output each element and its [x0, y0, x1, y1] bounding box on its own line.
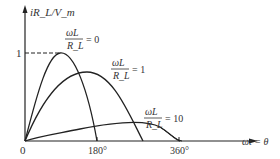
x-tick-label-360: 360° [170, 145, 189, 156]
svg-text:ωL: ωL [112, 57, 125, 68]
svg-text:ωL: ωL [145, 106, 158, 117]
y-axis-label: iR_L/V_m [30, 6, 75, 18]
label-wl-0: ωL R_L = 0 [65, 27, 99, 51]
curve-wl-1 [25, 72, 143, 141]
x-axis-label: ωt = θ [242, 136, 269, 147]
label-wl-10: ωL R_L = 10 [144, 106, 183, 130]
origin-label: 0 [20, 144, 26, 156]
svg-text:R_L: R_L [112, 70, 130, 81]
svg-text:ωL: ωL [66, 27, 79, 38]
y-tick-label: 1 [16, 47, 22, 59]
svg-text:= 0: = 0 [86, 34, 99, 45]
y-axis-arrow-icon [23, 5, 28, 13]
svg-text:= 10: = 10 [165, 113, 183, 124]
svg-text:R_L: R_L [66, 40, 84, 51]
current-waveform-diagram: iR_L/V_m 1 0 180° 360° ωt = θ ωL R_L = 0… [0, 0, 280, 159]
svg-text:R_L: R_L [145, 119, 163, 130]
x-tick-label-180: 180° [88, 145, 107, 156]
label-wl-1: ωL R_L = 1 [111, 57, 145, 81]
svg-text:= 1: = 1 [132, 64, 145, 75]
